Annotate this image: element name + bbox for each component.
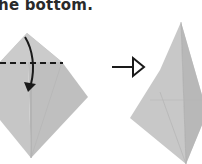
origami-diagram (0, 0, 202, 164)
fold-step-before (0, 33, 88, 158)
paper-result-left (130, 22, 186, 164)
fold-step-after (130, 22, 202, 164)
paper-top-flap (0, 33, 62, 62)
next-step-arrow-icon (112, 58, 144, 76)
